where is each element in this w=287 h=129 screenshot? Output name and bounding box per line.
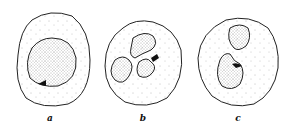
cell-b-drawing [95, 0, 191, 129]
panel-a: a [2, 0, 98, 129]
cell-c-drawing [190, 0, 286, 129]
panel-label-b: b [95, 113, 191, 123]
panel-label-c: c [190, 113, 286, 123]
nucleus-round [27, 38, 76, 86]
panel-b: b [95, 0, 191, 129]
cell-a-drawing [2, 0, 98, 129]
panel-label-a: a [2, 113, 98, 123]
panel-c: c [190, 0, 286, 129]
